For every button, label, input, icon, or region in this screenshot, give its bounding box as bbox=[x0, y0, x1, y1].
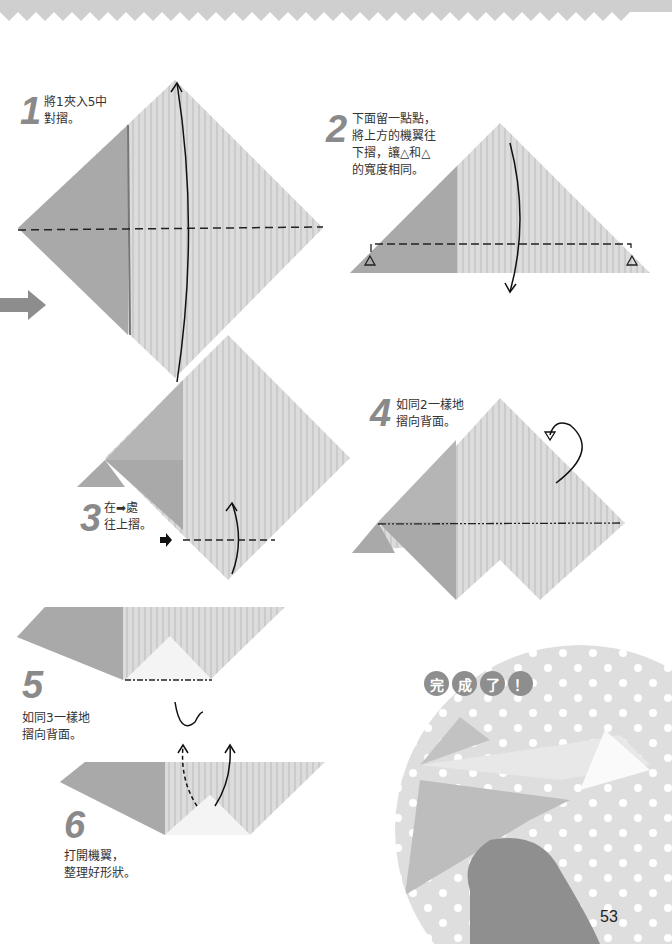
step-text-3: 在➡處 往上摺。 bbox=[104, 500, 152, 534]
step-number-4: 4 bbox=[370, 392, 391, 435]
step-text-2: 下面留一點點， 將上方的機翼往 下摺，讓△和△ 的寬度相同。 bbox=[352, 111, 436, 179]
header-zigzag-band bbox=[0, 0, 672, 21]
step4-diagram bbox=[352, 398, 625, 600]
black-arrow-icon bbox=[160, 533, 172, 547]
completion-badges: 完 成 了 ！ bbox=[424, 671, 533, 696]
step3-diagram bbox=[77, 335, 350, 580]
step-number-6: 6 bbox=[64, 804, 85, 847]
step-number-5: 5 bbox=[22, 664, 43, 707]
step-text-6: 打開機翼， 整理好形狀。 bbox=[64, 848, 136, 882]
step-number-3: 3 bbox=[80, 497, 101, 540]
step-text-4: 如同2一樣地 摺向背面。 bbox=[396, 397, 464, 431]
badge-4: ！ bbox=[508, 671, 533, 696]
step-number-2: 2 bbox=[326, 108, 347, 151]
step5-diagram bbox=[17, 607, 285, 726]
badge-1: 完 bbox=[424, 671, 449, 696]
page-number: 53 bbox=[600, 908, 618, 926]
step-number-1: 1 bbox=[20, 90, 41, 133]
badge-2: 成 bbox=[452, 671, 477, 696]
instruction-page: 1 將1夾入5中 對摺。 2 下面留一點點， 將上方的機翼往 下摺，讓△和△ 的… bbox=[0, 0, 672, 944]
gray-arrow-icon bbox=[0, 290, 46, 320]
step-text-5: 如同3一樣地 摺向背面。 bbox=[22, 710, 90, 744]
badge-3: 了 bbox=[480, 671, 505, 696]
step-text-1: 將1夾入5中 對摺。 bbox=[44, 94, 107, 128]
step6-diagram bbox=[60, 745, 325, 835]
